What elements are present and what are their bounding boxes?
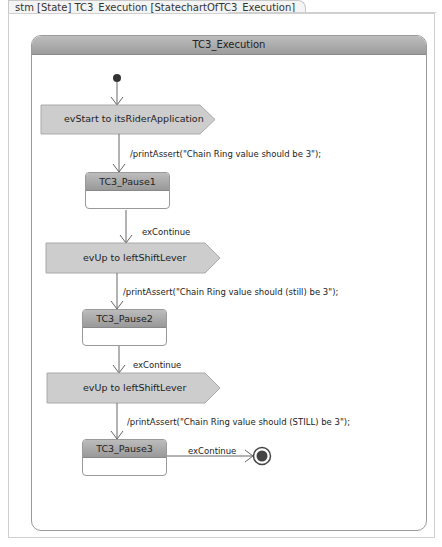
- state-tc3-pause3[interactable]: TC3_Pause3: [82, 439, 167, 476]
- signal-label: evUp to leftShiftLever: [83, 252, 186, 263]
- state-name: TC3_Pause1: [86, 173, 169, 191]
- initial-state-icon[interactable]: [113, 74, 121, 82]
- diagram-canvas: [0, 0, 442, 547]
- state-tc3-pause2[interactable]: TC3_Pause2: [82, 309, 167, 346]
- signal-label: evUp to leftShiftLever: [83, 382, 186, 393]
- state-name: TC3_Pause3: [83, 440, 166, 458]
- transition-trigger[interactable]: exContinue: [188, 446, 236, 456]
- transition-action[interactable]: /printAssert("Chain Ring value should (S…: [127, 417, 350, 427]
- transition-action[interactable]: /printAssert("Chain Ring value should be…: [130, 149, 321, 159]
- transition-trigger[interactable]: exContinue: [142, 227, 190, 237]
- state-name: TC3_Pause2: [83, 310, 166, 328]
- transition-trigger[interactable]: exContinue: [133, 360, 181, 370]
- transition-action[interactable]: /printAssert("Chain Ring value should (s…: [123, 287, 338, 297]
- state-tc3-pause1[interactable]: TC3_Pause1: [85, 172, 170, 209]
- signal-label: evStart to itsRiderApplication: [64, 113, 204, 124]
